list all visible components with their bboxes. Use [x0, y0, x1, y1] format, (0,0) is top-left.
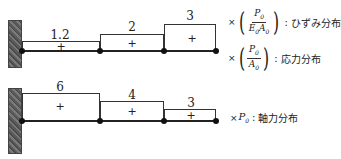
- segment-value-3: 3: [181, 97, 201, 109]
- variable-p0: P0: [239, 111, 250, 124]
- legend-axial-force: × P0 : 軸力分布: [230, 110, 298, 125]
- legend-label-stress: 応力分布: [281, 51, 321, 66]
- node-0-top: [19, 48, 25, 54]
- fraction-p0-over-e0a0: P0 E0A0: [247, 8, 272, 37]
- sign-plus-1: +: [54, 101, 66, 112]
- times-symbol: ×: [228, 17, 236, 27]
- legend-label-strain: ひずみ分布: [291, 15, 341, 30]
- segment-value-2: 4: [122, 89, 142, 101]
- node-2-top: [161, 48, 167, 54]
- node-3-top: [213, 48, 219, 54]
- right-paren: ): [273, 9, 279, 35]
- sign-plus-3: +: [185, 110, 197, 121]
- right-paren: ): [263, 45, 269, 71]
- legend-label-axial-force: 軸力分布: [258, 110, 298, 125]
- legend-stress: × ( P0 A0 ) : 応力分布: [228, 44, 321, 73]
- sign-plus-1: +: [55, 41, 67, 52]
- fraction-p0-over-a0: P0 A0: [247, 44, 261, 73]
- legend-strain: × ( P0 E0A0 ) : ひずみ分布: [228, 8, 341, 37]
- sign-plus-2: +: [126, 38, 138, 49]
- node-1-top: [97, 48, 103, 54]
- sign-plus-3: +: [186, 33, 198, 44]
- left-paren: (: [239, 45, 245, 71]
- node-1-bottom: [97, 118, 103, 124]
- fixed-wall-top: [8, 20, 22, 68]
- segment-value-1: 6: [50, 81, 70, 93]
- left-paren: (: [239, 9, 245, 35]
- times-symbol: ×: [228, 53, 236, 63]
- node-0-bottom: [19, 118, 25, 124]
- node-3-bottom: [213, 118, 219, 124]
- segment-value-3: 3: [180, 10, 200, 22]
- segment-value-2: 2: [120, 21, 144, 33]
- sign-plus-2: +: [126, 106, 138, 117]
- times-symbol: ×: [230, 113, 238, 123]
- node-2-bottom: [161, 118, 167, 124]
